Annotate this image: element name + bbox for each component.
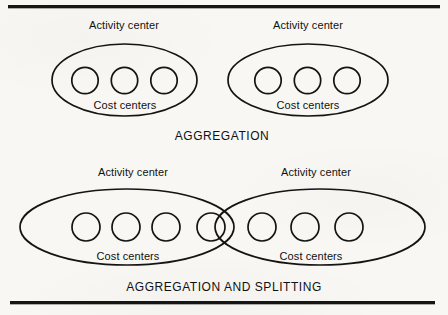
bottom-right-cost-circle-3 [335,213,363,241]
top-right-activity-center-label: Activity center [273,20,343,31]
bottom-right-cost-circle-2 [291,213,319,241]
top-left-cost-circle-1 [72,67,98,93]
bottom-right-cost-circle-1 [248,213,276,241]
top-left-activity-center-label: Activity center [89,20,159,31]
top-horizontal-rule [8,5,440,8]
bottom-right-activity-center-label: Activity center [281,167,351,178]
diagram-canvas [0,0,448,315]
aggregation-caption: AGGREGATION [175,130,270,142]
bottom-right-cost-centers-label: Cost centers [280,251,343,262]
top-right-cost-centers-label: Cost centers [277,100,340,111]
aggregation-and-splitting-caption: AGGREGATION AND SPLITTING [126,281,322,293]
top-left-cost-circle-3 [151,67,177,93]
top-left-cost-circle-2 [111,67,137,93]
figure-page: Activity center Activity center Cost cen… [0,0,448,315]
top-right-cost-circle-2 [294,67,320,93]
bottom-horizontal-rule [10,301,435,304]
top-right-cost-circle-1 [255,67,281,93]
bottom-shared-cost-circle [197,213,225,241]
top-right-cost-circle-3 [334,67,360,93]
bottom-left-cost-centers-label: Cost centers [97,251,160,262]
top-left-cost-centers-label: Cost centers [94,100,157,111]
bottom-left-cost-circle-3 [152,213,180,241]
bottom-left-activity-center-label: Activity center [98,167,168,178]
bottom-left-cost-circle-2 [112,213,140,241]
bottom-left-cost-circle-1 [72,213,100,241]
